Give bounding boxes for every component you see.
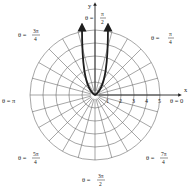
- grid-ray: [78, 99, 94, 158]
- angle-label-pi-4-num: π: [169, 31, 172, 37]
- angle-label-5pi-4: θ =: [18, 154, 27, 161]
- angle-label-7pi-4: θ =: [146, 154, 155, 161]
- tick-5: 5: [158, 98, 161, 104]
- angle-label-7pi-4-den: 4: [162, 159, 165, 165]
- tick-1: 1: [106, 98, 109, 104]
- x-axis-label: x: [184, 86, 188, 93]
- grid-ray: [63, 39, 94, 92]
- angle-label-3pi-4-num: 3π: [33, 28, 39, 34]
- grid-ray: [97, 98, 128, 151]
- grid-ray: [39, 97, 92, 128]
- polar-graph-svg: x y 1 2 3 4 5 θ = 0 θ = π 4 θ = π 2 θ = …: [0, 0, 190, 194]
- radial-tick-labels: 1 2 3 4 5: [106, 98, 161, 104]
- angle-label-5pi-4-den: 4: [34, 159, 37, 165]
- tick-4: 4: [145, 98, 148, 104]
- angle-label-3pi-4: θ =: [18, 31, 27, 38]
- grid-ray: [96, 99, 112, 158]
- angle-label-5pi-4-num: 5π: [33, 151, 39, 157]
- angle-label-3pi-4-den: 4: [34, 36, 37, 42]
- angle-label-pi-2-den: 2: [101, 19, 104, 25]
- tick-3: 3: [132, 98, 135, 104]
- polar-graph: x y 1 2 3 4 5 θ = 0 θ = π 4 θ = π 2 θ = …: [0, 0, 190, 194]
- angle-label-pi-4: θ =: [151, 34, 160, 41]
- angle-label-pi-2: θ =: [85, 14, 94, 21]
- grid-ray: [99, 78, 158, 94]
- grid-ray: [32, 96, 91, 112]
- angle-label-pi: θ = π: [2, 97, 16, 104]
- tick-2: 2: [119, 98, 122, 104]
- y-axis-label: y: [88, 2, 92, 9]
- angle-label-3pi-2-num: 3π: [98, 173, 104, 179]
- angle-label-0: θ = 0: [170, 97, 183, 104]
- angle-label-3pi-2: θ =: [82, 176, 91, 183]
- angle-label-pi-4-den: 4: [169, 39, 172, 45]
- grid-ray: [32, 78, 91, 94]
- angle-label-3pi-2-den: 2: [99, 181, 102, 187]
- angle-label-7pi-4-num: 7π: [161, 151, 167, 157]
- angle-label-pi-2-num: π: [101, 11, 104, 17]
- grid-ray: [63, 98, 94, 151]
- grid-ray: [97, 39, 128, 92]
